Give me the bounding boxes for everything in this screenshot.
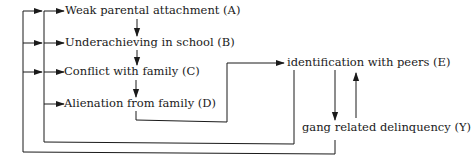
node-c-conflict-with-family: Conflict with family (C) <box>64 66 200 78</box>
node-y-gang-related-delinquency: gang related delinquency (Y) <box>302 122 471 134</box>
node-a-weak-parental-attachment: Weak parental attachment (A) <box>65 5 240 17</box>
node-d-alienation-from-family: Alienation from family (D) <box>64 98 216 110</box>
path-diagram: Weak parental attachment (A) Underachiev… <box>0 0 472 163</box>
diagram-connectors <box>0 0 472 163</box>
node-b-underachieving-in-school: Underachieving in school (B) <box>65 37 235 49</box>
node-e-identification-with-peers: identification with peers (E) <box>287 57 450 69</box>
feedback-line-y-to-abc <box>23 11 335 154</box>
